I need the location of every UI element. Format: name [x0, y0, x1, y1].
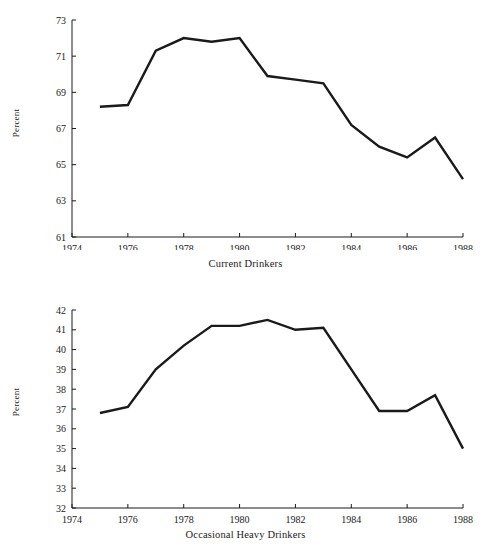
y-tick-label: 38 — [56, 384, 66, 395]
x-tick-label: 1986 — [397, 243, 417, 250]
data-series-line — [100, 38, 463, 179]
x-tick-label: 1976 — [118, 243, 138, 250]
x-tick-label: 1982 — [285, 243, 305, 250]
y-tick-label: 61 — [56, 232, 66, 243]
y-tick-label: 40 — [56, 344, 66, 355]
x-tick-label: 1982 — [285, 514, 305, 525]
x-tick-label: 1988 — [453, 243, 473, 250]
y-tick-label: 41 — [56, 324, 66, 335]
x-tick-label: 1988 — [453, 514, 473, 525]
y-tick-label: 71 — [56, 51, 66, 62]
y-tick-label: 37 — [56, 404, 66, 415]
x-tick-label: 1976 — [118, 514, 138, 525]
y-tick-label: 33 — [56, 483, 66, 494]
x-tick-label: 1980 — [230, 243, 250, 250]
x-tick-label: 1984 — [341, 243, 361, 250]
data-series-line — [100, 320, 463, 449]
y-axis-title-current-drinkers: Percent — [11, 98, 21, 148]
axis-spines — [72, 20, 463, 237]
chart-occasional-heavy-drinkers: 3233343536373839404142197419761978198019… — [0, 285, 491, 553]
y-tick-label: 36 — [56, 423, 66, 434]
y-tick-label: 32 — [56, 503, 66, 514]
plot-area-current-drinkers: 6163656769717319741976197819801982198419… — [0, 0, 491, 250]
y-tick-label: 65 — [56, 159, 66, 170]
x-tick-label: 1984 — [341, 514, 361, 525]
chart-caption-occasional-heavy-drinkers: Occasional Heavy Drinkers — [0, 529, 491, 540]
x-tick-label: 1978 — [174, 514, 194, 525]
y-tick-label: 67 — [56, 123, 66, 134]
chart-caption-current-drinkers: Current Drinkers — [0, 258, 491, 269]
y-tick-label: 42 — [56, 305, 66, 316]
y-tick-label: 63 — [56, 195, 66, 206]
chart-current-drinkers: 6163656769717319741976197819801982198419… — [0, 0, 491, 285]
x-tick-label: 1980 — [230, 514, 250, 525]
y-axis-title-occasional-heavy-drinkers: Percent — [11, 377, 21, 427]
y-tick-label: 39 — [56, 364, 66, 375]
plot-area-occasional-heavy-drinkers: 3233343536373839404142197419761978198019… — [0, 285, 491, 525]
y-tick-label: 73 — [56, 15, 66, 26]
x-tick-label: 1974 — [62, 243, 82, 250]
axis-spines — [72, 310, 463, 508]
y-tick-label: 35 — [56, 443, 66, 454]
y-tick-label: 69 — [56, 87, 66, 98]
x-tick-label: 1978 — [174, 243, 194, 250]
x-tick-label: 1986 — [397, 514, 417, 525]
x-tick-label: 1974 — [62, 514, 82, 525]
y-tick-label: 34 — [56, 463, 66, 474]
